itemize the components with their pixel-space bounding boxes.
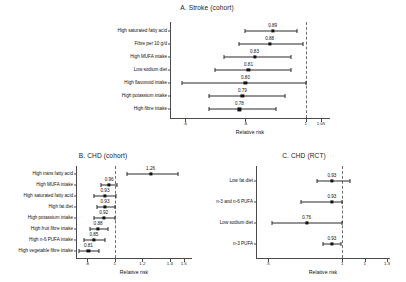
- point-estimate-marker: [87, 249, 90, 252]
- ci-cap-low: [215, 68, 216, 72]
- row-label: High fat diet: [48, 204, 76, 209]
- point-estimate-value: 0.93: [327, 195, 336, 200]
- panel-c-plot-area: Low fat diet0.93n-3 and n-6 PUFA0.93Low …: [256, 166, 390, 258]
- ci-cap-low: [89, 227, 90, 231]
- x-tick-label: 1: [113, 262, 115, 266]
- ci-cap-low: [323, 242, 324, 246]
- y-tick: [168, 30, 170, 31]
- point-estimate-value: 0.93: [327, 237, 336, 242]
- forest-plot-figure: A. Stroke (cohort) High saturated fatty …: [0, 0, 406, 282]
- ci-cap-low: [127, 172, 128, 176]
- ci-cap-high: [105, 238, 106, 242]
- ci-cap-high: [305, 81, 306, 85]
- row-label: High fruit fibre intake: [31, 226, 76, 231]
- x-tick-label: 1: [363, 262, 365, 266]
- y-tick: [74, 184, 76, 185]
- ci-cap-low: [209, 107, 210, 111]
- ci-cap-high: [302, 42, 303, 46]
- point-estimate-marker: [102, 216, 105, 219]
- y-tick: [168, 70, 170, 71]
- x-tick-label: .5: [266, 262, 270, 266]
- ci-cap-high: [178, 172, 179, 176]
- point-estimate-marker: [241, 95, 244, 98]
- row-label: High fibre intake: [134, 107, 170, 112]
- point-estimate-value: 1.26: [146, 167, 155, 172]
- panel-b-series: High trans fatty acid1.26High MUFA intak…: [76, 166, 192, 258]
- x-tick-label: .8: [244, 122, 248, 126]
- confidence-interval-line: [127, 173, 178, 174]
- ci-cap-low: [93, 216, 94, 220]
- ci-cap-high: [284, 94, 285, 98]
- panel-b-chd-cohort: B. CHD (cohort) High trans fatty acid1.2…: [2, 152, 204, 280]
- confidence-interval-line: [215, 70, 290, 71]
- ci-cap-low: [100, 183, 101, 187]
- ci-cap-high: [107, 227, 108, 231]
- confidence-interval-line: [209, 109, 275, 110]
- panel-a-plot-area: High saturated fatty acid0.89Fibre per 1…: [170, 22, 330, 118]
- point-estimate-marker: [97, 227, 100, 230]
- panel-b-plot-area: High trans fatty acid1.26High MUFA intak…: [76, 166, 192, 258]
- row-label: High potassium intake: [28, 215, 76, 220]
- x-tick-label: 1: [341, 262, 343, 266]
- point-estimate-value: 0.76: [302, 216, 311, 221]
- row-label: High potassium intake: [122, 94, 170, 99]
- point-estimate-value: 0.81: [244, 63, 253, 68]
- point-estimate-value: 0.80: [241, 77, 250, 82]
- panel-a-stroke-cohort: A. Stroke (cohort) High saturated fatty …: [62, 4, 352, 140]
- point-estimate-value: 0.92: [99, 211, 108, 216]
- y-tick: [168, 56, 170, 57]
- row-label: Fibre per 10 g/d: [135, 41, 170, 46]
- y-tick: [168, 43, 170, 44]
- ci-cap-high: [114, 216, 115, 220]
- ci-cap-low: [182, 81, 183, 85]
- point-estimate-marker: [305, 221, 308, 224]
- x-axis-title: Relative risk: [76, 269, 192, 275]
- x-tick-label: .6: [183, 122, 187, 126]
- ci-cap-low: [239, 42, 240, 46]
- ci-cap-low: [317, 179, 318, 183]
- row-label: Low sodium diet: [220, 220, 256, 225]
- reference-line-rr-1: [306, 22, 307, 118]
- ci-cap-low: [272, 221, 273, 225]
- ci-cap-high: [342, 221, 343, 225]
- row-label: Low sodium diet: [134, 68, 170, 73]
- y-tick: [74, 217, 76, 218]
- point-estimate-marker: [271, 29, 274, 32]
- point-estimate-marker: [108, 183, 111, 186]
- panel-c-series: Low fat diet0.93n-3 and n-6 PUFA0.93Low …: [256, 166, 390, 258]
- ci-cap-low: [300, 200, 301, 204]
- y-tick: [74, 239, 76, 240]
- ci-cap-high: [340, 242, 341, 246]
- point-estimate-value: 0.83: [250, 50, 259, 55]
- row-label: Low fat diet: [230, 178, 257, 183]
- ci-cap-high: [290, 55, 291, 59]
- row-label: High n-6 PUFA intake: [29, 237, 76, 242]
- ci-cap-high: [342, 200, 343, 204]
- panel-a-title: A. Stroke (cohort): [62, 4, 352, 11]
- x-tick-label: 1.4: [167, 262, 173, 266]
- y-tick: [74, 173, 76, 174]
- x-axis-title: Relative risk: [170, 129, 330, 135]
- ci-cap-low: [84, 238, 85, 242]
- point-estimate-marker: [103, 205, 106, 208]
- x-tick-label: .8: [85, 262, 89, 266]
- point-estimate-value: 0.81: [84, 244, 93, 249]
- ci-cap-high: [116, 194, 117, 198]
- ci-cap-high: [114, 205, 115, 209]
- panel-b-title: B. CHD (cohort): [2, 152, 204, 159]
- ci-cap-high: [296, 29, 297, 33]
- ci-cap-low: [78, 249, 79, 253]
- ci-cap-high: [275, 107, 276, 111]
- confidence-interval-line: [301, 201, 343, 202]
- y-tick: [74, 250, 76, 251]
- y-tick: [74, 228, 76, 229]
- x-tick-label: 1.3: [384, 262, 390, 266]
- ci-cap-high: [349, 179, 350, 183]
- y-tick: [254, 222, 256, 223]
- ci-cap-low: [209, 94, 210, 98]
- row-label: n-3 PUFA: [233, 241, 256, 246]
- x-axis-line: [76, 258, 192, 259]
- row-label: High flavonoid intake: [124, 81, 170, 86]
- point-estimate-marker: [253, 55, 256, 58]
- point-estimate-marker: [247, 68, 250, 71]
